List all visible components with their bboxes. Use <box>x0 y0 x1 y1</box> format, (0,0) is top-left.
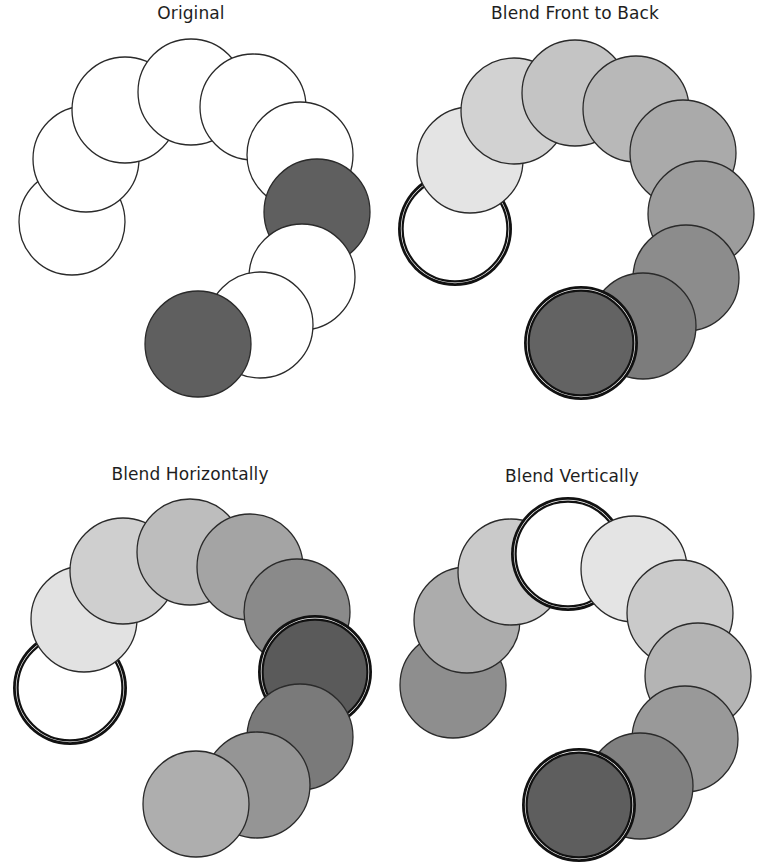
panel-title-original: Original <box>157 3 224 23</box>
panel-blend-horizontally <box>13 499 372 857</box>
selected-circle <box>524 286 638 400</box>
panel-title-blend-front-to-back: Blend Front to Back <box>491 3 659 23</box>
circle <box>143 751 249 857</box>
panel-blend-vertically <box>400 497 751 862</box>
blend-comparison-figure: Original Blend Front to Back Blend Horiz… <box>0 0 771 868</box>
selected-circle <box>522 748 636 862</box>
circles-canvas <box>0 0 771 868</box>
circle <box>145 291 251 397</box>
panel-title-blend-vertically: Blend Vertically <box>505 466 639 486</box>
panel-title-blend-horizontally: Blend Horizontally <box>111 464 268 484</box>
panel-original <box>19 39 370 397</box>
panel-blend-front-to-back <box>398 40 754 400</box>
